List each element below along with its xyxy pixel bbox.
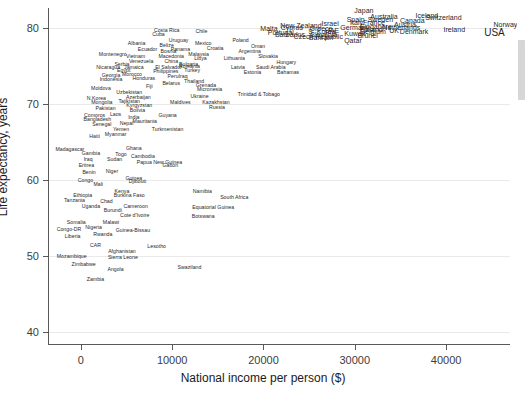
point-label: Equatorial Guinea <box>192 204 234 210</box>
y-tick-label: 70 <box>27 98 39 110</box>
x-tick <box>172 345 173 350</box>
point-label: Djibouti <box>129 178 146 184</box>
scrollbar-thumb[interactable] <box>518 40 525 100</box>
point-label: Niger <box>106 168 119 174</box>
y-tick <box>43 180 48 181</box>
point-label: Congo-DR <box>57 226 82 232</box>
x-tick-label: 10000 <box>157 354 188 366</box>
point-label: Peru <box>168 73 179 79</box>
point-label: Rwanda <box>93 231 112 237</box>
point-label: Estonia <box>244 69 261 75</box>
x-axis-line <box>48 344 510 345</box>
y-tick-label: 40 <box>27 326 39 338</box>
vertical-scrollbar[interactable] <box>517 0 526 393</box>
x-tick-label: 30000 <box>339 354 370 366</box>
y-tick-label: 60 <box>27 174 39 186</box>
point-label: Cote d'Ivoire <box>120 212 149 218</box>
point-label: Albania <box>128 40 145 46</box>
point-label: USA <box>484 27 505 38</box>
point-label: Lesotho <box>147 243 166 249</box>
point-label: CAR <box>90 242 101 248</box>
point-label: Nigeria <box>85 224 102 230</box>
point-label: Chile <box>195 28 207 34</box>
point-label: Slovakia <box>258 53 278 59</box>
point-label: Congo <box>78 177 93 183</box>
point-label: Poland <box>233 37 249 43</box>
gridline <box>49 332 510 333</box>
point-label: Zambia <box>87 276 104 282</box>
point-label: Micronesia <box>197 86 222 92</box>
point-label: Namibia <box>193 188 212 194</box>
point-label: Liberia <box>65 233 81 239</box>
point-label: Indonesia <box>100 76 123 82</box>
point-label: Maldives <box>170 99 191 105</box>
y-tick <box>43 28 48 29</box>
x-tick <box>81 345 82 350</box>
gridline <box>49 104 510 105</box>
point-label: Gabon <box>163 162 179 168</box>
y-tick <box>43 332 48 333</box>
point-label: Burundi <box>104 207 122 213</box>
point-label: Burkina Faso <box>114 192 145 198</box>
point-label: Montenegro <box>99 51 127 57</box>
point-label: Somalia <box>67 219 86 225</box>
point-label: Fiji <box>146 83 153 89</box>
x-tick-label: 0 <box>78 354 84 366</box>
point-label: UK <box>389 27 399 35</box>
point-label: Madagascar <box>56 146 85 152</box>
point-label: Ireland <box>444 26 466 34</box>
point-label: Sierra Leone <box>108 254 138 260</box>
point-label: Myanmar <box>105 131 127 137</box>
x-tick-label: 20000 <box>248 354 279 366</box>
point-label: Latvia <box>231 64 245 70</box>
point-label: Guyana <box>158 112 176 118</box>
point-label: Botswana <box>192 213 215 219</box>
x-tick <box>446 345 447 350</box>
point-label: Barbados <box>275 31 305 39</box>
x-tick <box>355 345 356 350</box>
point-label: Afghanistan <box>108 248 136 254</box>
point-label: Belarus <box>162 80 180 86</box>
point-label: Bahrain <box>309 34 333 42</box>
scatter-plot-area: JapanIcelandAustraliaSwitzerlandSpainSwe… <box>48 8 510 345</box>
point-label: Russia <box>209 104 225 110</box>
point-label: Ghana <box>126 145 142 151</box>
point-label: Guinea-Bissau <box>116 227 150 233</box>
y-axis-line <box>48 8 49 345</box>
point-label: Mauritania <box>133 118 157 124</box>
point-label: Lithuania <box>224 55 245 61</box>
point-label: Swaziland <box>178 264 202 270</box>
point-label: Turkmenistan <box>152 126 183 132</box>
y-axis-title: Life expectancy, years <box>0 98 10 217</box>
point-label: Trinidad & Tobago <box>238 91 280 97</box>
x-tick-label: 40000 <box>431 354 462 366</box>
point-label: Bolivia <box>130 107 145 113</box>
point-label: Uganda <box>82 203 100 209</box>
point-label: Bahamas <box>277 69 299 75</box>
point-label: Haiti <box>89 133 99 139</box>
point-label: Senegal <box>92 121 111 127</box>
point-label: Qatar <box>344 37 362 45</box>
point-label: Angola <box>107 266 123 272</box>
y-tick <box>43 256 48 257</box>
y-tick-label: 80 <box>27 22 39 34</box>
x-axis-title: National income per person ($) <box>0 371 526 385</box>
point-label: Sudan <box>107 156 122 162</box>
point-label: Zimbabwe <box>72 261 96 267</box>
point-label: Nepal <box>120 120 134 126</box>
point-label: Mozambique <box>57 253 87 259</box>
point-label: Gambia <box>82 150 100 156</box>
point-label: Malawi <box>103 219 119 225</box>
point-label: Laos <box>110 111 121 117</box>
point-label: Mali <box>93 181 103 187</box>
point-label: South Africa <box>220 194 248 200</box>
point-label: Benin <box>82 169 95 175</box>
point-label: Moldova <box>91 85 111 91</box>
point-label: Honduras <box>133 75 156 81</box>
point-label: Switzerland <box>425 14 461 22</box>
x-tick <box>263 345 264 350</box>
point-label: Denmark <box>400 28 429 36</box>
point-label: Eritrea <box>79 162 94 168</box>
point-label: Ecuador <box>138 46 157 52</box>
point-label: Cameroon <box>123 203 147 209</box>
